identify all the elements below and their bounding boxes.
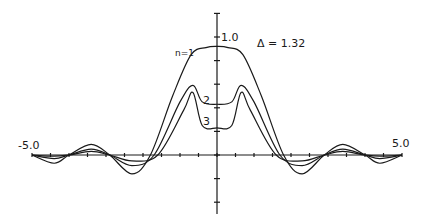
x-min-label: -5.0: [18, 140, 39, 151]
series-label-n3: 3: [203, 116, 210, 127]
axes: [32, 13, 402, 214]
delta-annotation: Δ = 1.32: [257, 38, 305, 49]
series-label-n2: 2: [203, 95, 210, 106]
x-max-label: 5.0: [392, 138, 410, 149]
series-label-n1: n=1: [175, 49, 194, 58]
y-one-label: 1.0: [221, 32, 239, 43]
plot-area: [0, 0, 428, 216]
